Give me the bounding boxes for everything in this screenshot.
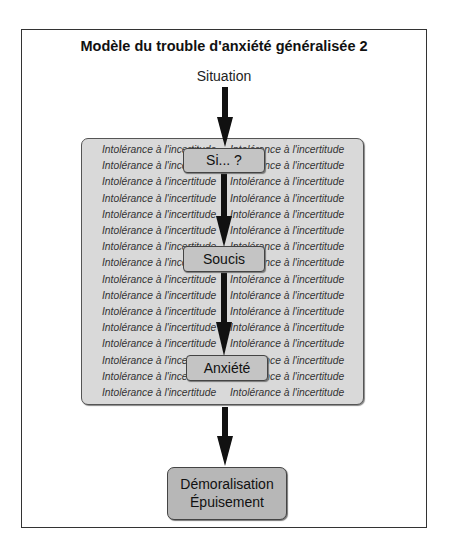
intolerance-text: Intolérance à l'incertitude	[102, 176, 216, 187]
node-final-line1: Démoralisation	[168, 475, 286, 493]
intolerance-text: Intolérance à l'incertitude	[102, 322, 216, 333]
node-soucis-label: Soucis	[203, 251, 245, 267]
intolerance-text: Intolérance à l'incertitude	[230, 306, 344, 317]
node-final-line2: Épuisement	[168, 493, 286, 511]
node-si: Si... ?	[183, 148, 265, 173]
intolerance-text: Intolérance à l'incertitude	[230, 338, 344, 349]
intolerance-text: Intolérance à l'incertitude	[102, 338, 216, 349]
intolerance-text: Intolérance à l'incertitude	[230, 209, 344, 220]
intolerance-text: Intolérance à l'incertitude	[230, 290, 344, 301]
node-soucis: Soucis	[183, 246, 265, 272]
intolerance-text: Intolérance à l'incertitude	[102, 209, 216, 220]
intolerance-text: Intolérance à l'incertitude	[230, 322, 344, 333]
intolerance-row: Intolérance à l'incertitudeIntolérance à…	[82, 387, 363, 403]
intolerance-text: Intolérance à l'incertitude	[102, 306, 216, 317]
arrow-down-icon	[214, 87, 236, 149]
intolerance-text: Intolérance à l'incertitude	[230, 176, 344, 187]
intolerance-text: Intolérance à l'incertitude	[230, 387, 344, 398]
intolerance-text: Intolérance à l'incertitude	[102, 290, 216, 301]
intolerance-text: Intolérance à l'incertitude	[102, 225, 216, 236]
situation-label: Situation	[21, 68, 427, 84]
intolerance-text: Intolérance à l'incertitude	[230, 274, 344, 285]
intolerance-text: Intolérance à l'incertitude	[230, 225, 344, 236]
intolerance-text: Intolérance à l'incertitude	[102, 193, 216, 204]
arrow-down-icon	[213, 272, 235, 357]
diagram-title: Modèle du trouble d'anxiété généralisée …	[21, 38, 427, 54]
intolerance-text: Intolérance à l'incertitude	[230, 193, 344, 204]
node-anxiete: Anxiété	[186, 355, 268, 381]
node-anxiete-label: Anxiété	[204, 360, 251, 376]
arrow-down-icon	[213, 172, 235, 248]
node-demoralisation: Démoralisation Épuisement	[167, 467, 287, 520]
node-si-label: Si... ?	[206, 152, 242, 168]
arrow-down-icon	[214, 407, 236, 467]
intolerance-text: Intolérance à l'incertitude	[102, 274, 216, 285]
intolerance-text: Intolérance à l'incertitude	[102, 387, 216, 398]
